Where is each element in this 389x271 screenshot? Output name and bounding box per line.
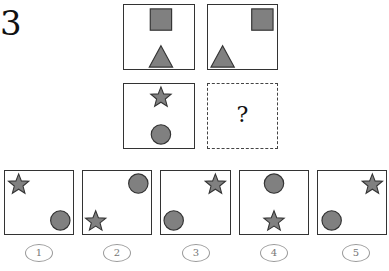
circle-icon bbox=[51, 211, 70, 230]
star-icon bbox=[264, 211, 284, 230]
answer-placeholder-cell: ? bbox=[207, 83, 278, 149]
circle-icon bbox=[264, 174, 283, 193]
option-4[interactable] bbox=[239, 170, 309, 235]
grid-cell-top-left bbox=[123, 4, 195, 70]
option-5[interactable] bbox=[317, 170, 387, 235]
star-icon bbox=[151, 87, 171, 106]
option-label-1[interactable]: 1 bbox=[25, 244, 53, 262]
grid-cell-top-right bbox=[207, 4, 278, 70]
circle-icon bbox=[164, 211, 183, 230]
option-label-4[interactable]: 4 bbox=[260, 244, 288, 262]
circle-icon bbox=[322, 211, 341, 230]
star-icon bbox=[205, 174, 225, 193]
option-label-5[interactable]: 5 bbox=[342, 244, 370, 262]
question-mark: ? bbox=[208, 102, 277, 127]
option-label-3[interactable]: 3 bbox=[182, 244, 210, 262]
option-1[interactable] bbox=[4, 170, 74, 235]
square-icon bbox=[252, 9, 273, 30]
square-icon bbox=[150, 9, 171, 30]
triangle-icon bbox=[149, 46, 172, 67]
star-icon bbox=[86, 211, 106, 230]
star-icon bbox=[362, 174, 382, 193]
option-3[interactable] bbox=[160, 170, 231, 235]
problem-number: 3 bbox=[0, 6, 22, 40]
triangle-icon bbox=[211, 46, 234, 67]
star-icon bbox=[8, 174, 28, 193]
circle-icon bbox=[129, 174, 148, 193]
option-2[interactable] bbox=[82, 170, 152, 235]
option-label-2[interactable]: 2 bbox=[103, 244, 131, 262]
grid-cell-bottom-left bbox=[123, 83, 195, 149]
circle-icon bbox=[151, 125, 170, 144]
